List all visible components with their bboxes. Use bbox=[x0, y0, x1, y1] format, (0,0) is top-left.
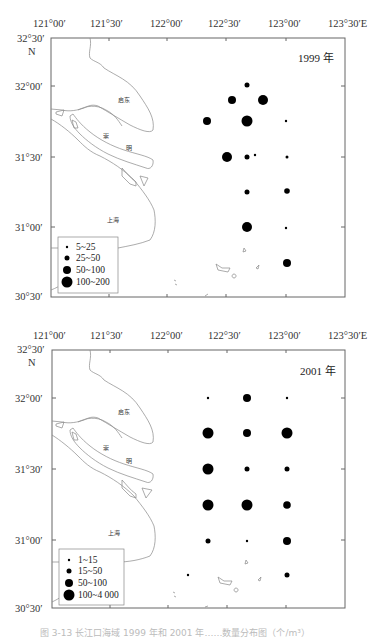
place-label-ming: 明 bbox=[126, 457, 132, 465]
place-label-chong: 崇 bbox=[103, 132, 109, 139]
station-dot bbox=[286, 156, 289, 159]
legend: 5~25 25~50 50~100 100~200 bbox=[58, 237, 118, 293]
lon-label: 121°30′ bbox=[90, 330, 123, 341]
station-dot bbox=[283, 501, 291, 509]
station-dot bbox=[246, 540, 248, 542]
north-label: N bbox=[28, 46, 36, 57]
station-dot bbox=[285, 573, 290, 578]
station-dot bbox=[243, 429, 251, 437]
lon-label: 123°30′E bbox=[328, 18, 367, 29]
station-dot bbox=[283, 537, 291, 545]
lat-label: 32°30′ bbox=[17, 344, 45, 355]
lon-label: 121°30′ bbox=[90, 18, 123, 29]
lat-label: 32°30′ bbox=[17, 33, 45, 44]
legend-label: 50~100 bbox=[76, 265, 105, 275]
legend-label: 25~50 bbox=[76, 253, 100, 263]
station-dot bbox=[284, 188, 290, 194]
station-dot bbox=[228, 96, 236, 104]
station-dot bbox=[245, 83, 250, 88]
lon-label: 123°00′ bbox=[268, 18, 301, 29]
station-dot bbox=[203, 500, 214, 511]
lat-label: 30°30′ bbox=[15, 291, 43, 302]
year-label: 2001 年 bbox=[300, 364, 336, 377]
station-dot bbox=[206, 539, 211, 544]
place-label-qidong: 启东 bbox=[118, 96, 130, 104]
place-label-shanghai: 上海 bbox=[108, 529, 120, 537]
station-dots bbox=[187, 394, 293, 578]
north-label: N bbox=[28, 357, 36, 368]
station-dot bbox=[245, 190, 250, 195]
place-label-qidong: 启东 bbox=[118, 408, 130, 416]
legend-label: 100~200 bbox=[76, 277, 110, 287]
year-label: 1999 年 bbox=[298, 51, 334, 64]
map-1999: 121°00′ 121°30′ 122°00′ 122°30′ 123°00′ … bbox=[15, 18, 367, 302]
lat-label: 32°00′ bbox=[15, 81, 43, 92]
legend-label: 100~4 000 bbox=[78, 590, 119, 600]
legend-label: 1~15 bbox=[78, 555, 98, 565]
station-dot bbox=[282, 428, 293, 439]
station-dot bbox=[285, 227, 287, 229]
lat-label: 31°30′ bbox=[15, 464, 43, 475]
station-dot bbox=[203, 117, 211, 125]
place-label-chong: 崇 bbox=[103, 444, 109, 451]
legend-label: 15~50 bbox=[78, 566, 102, 576]
station-dot bbox=[207, 397, 209, 399]
map-2001: 121°00′ 121°30′ 122°00′ 122°30′ 123°00′ … bbox=[15, 330, 367, 614]
station-dot bbox=[222, 152, 232, 162]
lon-label: 121°00′ bbox=[33, 18, 66, 29]
station-dots bbox=[203, 83, 291, 268]
lon-label: 122°30′ bbox=[208, 330, 241, 341]
station-dot bbox=[254, 154, 256, 156]
station-dot bbox=[286, 397, 288, 399]
lat-label: 31°30′ bbox=[15, 152, 43, 163]
lat-label: 31°00′ bbox=[15, 535, 43, 546]
station-dot bbox=[242, 116, 253, 127]
station-dot bbox=[245, 467, 250, 472]
legend-label: 50~100 bbox=[78, 578, 107, 588]
legend: 1~15 15~50 50~100 100~4 000 bbox=[59, 549, 124, 605]
map-figure: 121°00′ 121°30′ 122°00′ 122°30′ 123°00′ … bbox=[0, 0, 384, 638]
place-label-ming: 明 bbox=[126, 144, 132, 152]
lat-label: 31°00′ bbox=[15, 222, 43, 233]
lon-label: 122°00′ bbox=[150, 18, 183, 29]
station-dot bbox=[242, 222, 252, 232]
figure-caption: 图 3-13 长江口海域 1999 年和 2001 年……数量分布图（个/m³） bbox=[40, 626, 360, 638]
place-label-shanghai: 上海 bbox=[107, 216, 119, 224]
station-dot bbox=[258, 95, 268, 105]
lon-label: 121°00′ bbox=[33, 330, 66, 341]
station-dot bbox=[187, 574, 189, 576]
station-dot bbox=[245, 155, 250, 160]
lon-label: 122°30′ bbox=[208, 18, 241, 29]
station-dot bbox=[285, 120, 287, 122]
lon-label: 123°30′E bbox=[328, 330, 367, 341]
legend-label: 5~25 bbox=[76, 242, 96, 252]
lat-label: 32°00′ bbox=[15, 393, 43, 404]
station-dot bbox=[283, 259, 291, 267]
station-dot bbox=[203, 428, 214, 439]
station-dot bbox=[243, 394, 251, 402]
lat-label: 30°30′ bbox=[15, 603, 43, 614]
lon-label: 122°00′ bbox=[150, 330, 183, 341]
station-dot bbox=[242, 500, 253, 511]
station-dot bbox=[203, 464, 214, 475]
station-dot bbox=[285, 467, 290, 472]
lon-label: 123°00′ bbox=[268, 330, 301, 341]
